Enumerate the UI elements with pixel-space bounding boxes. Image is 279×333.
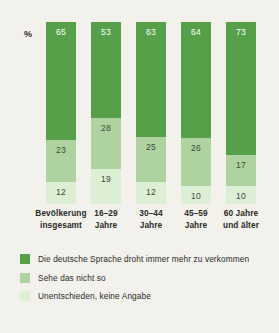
segment-sehe-nicht-so: 28	[91, 118, 121, 169]
segment-unentschieden: 19	[91, 169, 121, 204]
segment-unentschieden: 12	[136, 182, 166, 204]
segment-sehe-nicht-so: 26	[181, 138, 211, 185]
legend-item-sehe-nicht-so[interactable]: Sehe das nicht so	[20, 273, 270, 285]
segment-value: 28	[91, 123, 121, 133]
segment-droht: 53	[91, 22, 121, 118]
table-row[interactable]: 64 26 10	[181, 22, 211, 204]
plot-area: % 65 23 12 53 28	[0, 22, 279, 204]
legend-swatch-icon	[20, 273, 30, 283]
segment-value: 53	[91, 27, 121, 37]
table-row[interactable]: 63 25 12	[136, 22, 166, 204]
segment-value: 23	[46, 145, 76, 155]
segment-value: 26	[181, 143, 211, 153]
segment-value: 63	[136, 27, 166, 37]
table-row[interactable]: 53 28 19	[91, 22, 121, 204]
segment-value: 12	[136, 187, 166, 197]
segment-value: 12	[46, 187, 76, 197]
segment-droht: 65	[46, 22, 76, 140]
x-axis-labels: Bevölkerung insgesamt 16–29 Jahre 30–44 …	[46, 208, 270, 242]
segment-sehe-nicht-so: 25	[136, 137, 166, 183]
x-axis-label-60-plus: 60 Jahre und älter	[210, 208, 272, 231]
segment-unentschieden: 10	[226, 186, 256, 204]
segment-droht: 64	[181, 22, 211, 138]
segment-sehe-nicht-so: 17	[226, 155, 256, 186]
segment-value: 64	[181, 27, 211, 37]
segment-value: 73	[226, 27, 256, 37]
x-axis-label-line: und älter	[210, 220, 272, 232]
segment-value: 17	[226, 160, 256, 170]
segment-value: 25	[136, 142, 166, 152]
table-row[interactable]: 73 17 10	[226, 22, 256, 204]
legend-label: Die deutsche Sprache droht immer mehr zu…	[38, 254, 249, 266]
segment-sehe-nicht-so: 23	[46, 140, 76, 182]
segment-value: 10	[181, 191, 211, 201]
legend-label: Sehe das nicht so	[38, 273, 106, 285]
bar-group: 65 23 12 53 28 19	[46, 22, 270, 204]
legend-swatch-icon	[20, 291, 30, 301]
stacked-bar-chart: % 65 23 12 53 28	[0, 0, 279, 333]
x-axis-label-line: 60 Jahre	[210, 208, 272, 220]
segment-unentschieden: 12	[46, 182, 76, 204]
segment-droht: 63	[136, 22, 166, 137]
percent-axis-label: %	[24, 29, 32, 39]
legend-swatch-icon	[20, 254, 30, 264]
segment-value: 65	[46, 27, 76, 37]
segment-value: 19	[91, 174, 121, 184]
legend-label: Unentschieden, keine Angabe	[38, 291, 151, 303]
legend-item-unentschieden[interactable]: Unentschieden, keine Angabe	[20, 291, 270, 303]
legend: Die deutsche Sprache droht immer mehr zu…	[20, 254, 270, 310]
segment-droht: 73	[226, 22, 256, 155]
table-row[interactable]: 65 23 12	[46, 22, 76, 204]
segment-unentschieden: 10	[181, 186, 211, 204]
legend-item-droht[interactable]: Die deutsche Sprache droht immer mehr zu…	[20, 254, 270, 266]
segment-value: 10	[226, 191, 256, 201]
